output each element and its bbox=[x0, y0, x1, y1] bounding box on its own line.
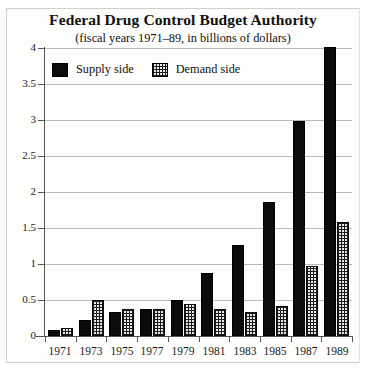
y-axis-tick-label: 3.5 bbox=[0, 78, 36, 89]
x-axis-tick-mark bbox=[76, 336, 77, 342]
bar-supply-1973 bbox=[79, 320, 91, 336]
bar-supply-1987 bbox=[293, 121, 305, 336]
chart-legend: Supply side Demand side bbox=[52, 62, 240, 77]
bar-demand-1973 bbox=[92, 300, 104, 336]
legend-label-supply-side: Supply side bbox=[76, 62, 134, 77]
bar-supply-1985 bbox=[263, 202, 275, 336]
x-axis-tick-mark bbox=[137, 336, 138, 342]
bar-supply-1981 bbox=[201, 273, 213, 336]
chart-figure: Federal Drug Control Budget Authority (f… bbox=[0, 0, 366, 371]
bar-supply-1971 bbox=[48, 330, 60, 336]
x-axis-line bbox=[36, 336, 353, 337]
bar-demand-1987 bbox=[306, 266, 318, 336]
y-axis-tick-label: 1 bbox=[0, 258, 36, 269]
x-axis-label-1989: 1989 bbox=[312, 345, 362, 357]
bar-demand-1985 bbox=[276, 306, 288, 336]
y-axis-tick-label: 3 bbox=[0, 114, 36, 125]
bar-supply-1989 bbox=[324, 47, 336, 336]
page-frame-right-rule bbox=[359, 8, 360, 363]
chart-subtitle: (fiscal years 1971–89, in billions of do… bbox=[0, 31, 366, 46]
chart-title: Federal Drug Control Budget Authority bbox=[0, 11, 366, 29]
bar-demand-1977 bbox=[153, 309, 165, 336]
legend-item-demand-side: Demand side bbox=[152, 62, 241, 77]
y-axis-tick-label: 0.5 bbox=[0, 294, 36, 305]
x-axis-tick-mark bbox=[321, 336, 322, 342]
y-axis-tick-label: 0 bbox=[0, 330, 36, 341]
bar-demand-1979 bbox=[184, 304, 196, 336]
x-axis-tick-mark bbox=[168, 336, 169, 342]
x-axis-tick-mark bbox=[229, 336, 230, 342]
x-axis-tick-mark bbox=[260, 336, 261, 342]
plot-area bbox=[45, 48, 352, 336]
bar-supply-1975 bbox=[109, 312, 121, 336]
x-axis-tick-mark bbox=[106, 336, 107, 342]
x-axis-tick-mark bbox=[352, 336, 353, 342]
x-axis-tick-mark bbox=[199, 336, 200, 342]
bar-demand-1989 bbox=[337, 222, 349, 336]
y-axis-tick-label: 1.5 bbox=[0, 222, 36, 233]
page-frame-bottom-rule bbox=[6, 362, 360, 363]
y-axis-tick-label: 2 bbox=[0, 186, 36, 197]
bar-demand-1975 bbox=[122, 309, 134, 336]
x-axis-tick-mark bbox=[291, 336, 292, 342]
legend-swatch-supply-icon bbox=[52, 63, 68, 77]
bar-demand-1981 bbox=[214, 309, 226, 336]
x-axis-tick-mark bbox=[45, 336, 46, 342]
bar-supply-1979 bbox=[171, 300, 183, 336]
bar-demand-1971 bbox=[61, 328, 73, 336]
bar-supply-1983 bbox=[232, 245, 244, 336]
legend-swatch-demand-icon bbox=[152, 63, 168, 77]
bar-demand-1983 bbox=[245, 312, 257, 336]
bar-supply-1977 bbox=[140, 309, 152, 336]
page-frame-top-rule bbox=[6, 8, 360, 9]
legend-item-supply-side: Supply side bbox=[52, 62, 134, 77]
legend-label-demand-side: Demand side bbox=[176, 62, 241, 77]
y-axis-tick-label: 4 bbox=[0, 42, 36, 53]
y-axis-tick-label: 2.5 bbox=[0, 150, 36, 161]
